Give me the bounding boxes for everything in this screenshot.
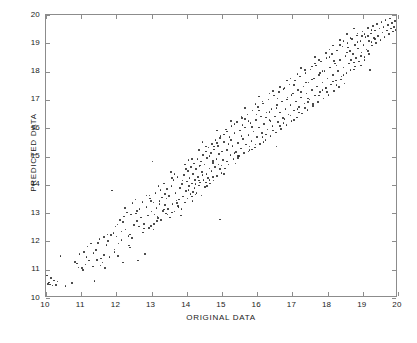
data-point — [216, 130, 218, 132]
y-tick-label: 12 — [20, 236, 40, 245]
data-point — [195, 183, 197, 185]
data-point — [285, 108, 287, 110]
data-point — [234, 123, 236, 125]
data-point — [244, 107, 246, 109]
data-point — [162, 210, 164, 212]
data-point — [219, 168, 221, 170]
data-point — [270, 135, 272, 137]
data-point — [237, 155, 239, 157]
data-point — [294, 80, 296, 82]
x-tick-label: 20 — [385, 300, 409, 309]
data-point — [272, 130, 274, 132]
x-tick-top — [187, 15, 188, 19]
data-point — [391, 22, 393, 24]
data-point — [279, 125, 281, 127]
data-point — [116, 236, 118, 238]
data-point — [269, 93, 271, 95]
y-tick-right — [392, 72, 396, 73]
data-point — [109, 256, 111, 258]
data-point — [385, 19, 387, 21]
data-point — [312, 105, 314, 107]
y-tick-label: 10 — [20, 293, 40, 302]
data-point — [329, 56, 331, 58]
data-point — [300, 91, 302, 93]
y-tick-right — [392, 270, 396, 271]
data-point — [208, 147, 210, 149]
data-point — [152, 161, 154, 163]
data-point — [201, 195, 203, 197]
data-point — [87, 246, 89, 248]
data-point — [135, 213, 137, 215]
data-point — [219, 219, 221, 221]
data-point — [90, 243, 92, 245]
data-point — [117, 255, 119, 257]
data-point — [169, 217, 171, 219]
data-point — [146, 206, 148, 208]
data-point — [111, 190, 113, 192]
data-point — [53, 280, 55, 282]
x-tick-label: 15 — [209, 300, 233, 309]
data-point — [117, 224, 119, 226]
data-point — [223, 134, 225, 136]
data-point — [347, 42, 349, 44]
data-point — [99, 238, 101, 240]
data-point — [230, 154, 232, 156]
data-point — [46, 275, 48, 277]
data-point — [171, 177, 173, 179]
data-point — [121, 239, 123, 241]
data-point — [371, 29, 373, 31]
data-point — [305, 72, 307, 74]
data-point — [142, 232, 144, 234]
data-point — [333, 90, 335, 92]
data-point — [163, 183, 165, 185]
data-point — [198, 149, 200, 151]
data-point — [175, 192, 177, 194]
data-point — [364, 33, 366, 35]
data-point — [185, 190, 187, 192]
data-point — [182, 180, 184, 182]
data-point — [154, 214, 156, 216]
data-point — [126, 212, 128, 214]
data-point — [217, 145, 219, 147]
data-point — [368, 40, 370, 42]
data-point — [174, 211, 176, 213]
y-tick — [46, 298, 50, 299]
data-point — [140, 217, 142, 219]
data-point — [113, 232, 115, 234]
data-point — [52, 285, 54, 287]
data-point — [164, 204, 166, 206]
data-point — [316, 86, 318, 88]
data-point — [226, 131, 228, 133]
data-point — [384, 36, 386, 38]
data-point — [394, 20, 396, 22]
data-point — [242, 138, 244, 140]
data-point — [319, 72, 321, 74]
data-point — [176, 200, 178, 202]
data-point — [352, 53, 354, 55]
data-point — [125, 229, 127, 231]
data-point — [353, 28, 355, 30]
data-point — [357, 33, 359, 35]
data-point — [377, 35, 379, 37]
data-point — [353, 69, 355, 71]
data-point — [223, 173, 225, 175]
data-point — [205, 146, 207, 148]
data-point — [190, 193, 192, 195]
data-point — [57, 281, 59, 283]
x-tick — [398, 292, 399, 296]
y-tick-right — [392, 298, 396, 299]
data-point — [129, 234, 131, 236]
data-point — [286, 124, 288, 126]
data-point — [381, 21, 383, 23]
data-point — [228, 143, 230, 145]
data-point — [331, 53, 333, 55]
data-point — [143, 228, 145, 230]
data-point — [322, 82, 324, 84]
data-point — [276, 107, 278, 109]
data-point — [293, 110, 295, 112]
data-point — [263, 141, 265, 143]
y-tick-right — [392, 15, 396, 16]
data-point — [320, 61, 322, 63]
data-point — [365, 36, 367, 38]
data-point — [348, 63, 350, 65]
